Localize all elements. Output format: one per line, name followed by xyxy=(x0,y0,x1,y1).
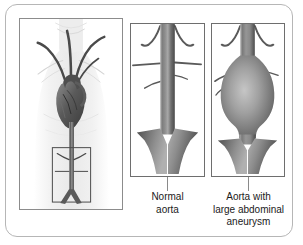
iliac-bifurcation xyxy=(137,129,198,174)
descending-aorta xyxy=(69,122,74,192)
caption-normal-line-2: aorta xyxy=(130,204,205,217)
panel-normal-aorta xyxy=(130,23,205,177)
caption-normal-aorta: Normal aorta xyxy=(130,191,205,216)
caption-normal-line-1: Normal xyxy=(130,191,205,204)
torso-illustration xyxy=(20,19,122,209)
panel-aneurysm-aorta xyxy=(211,23,285,177)
caption-aneurysm-aorta: Aorta with large abdominal aneurysm xyxy=(199,191,293,229)
caption-aneurysm-line-3: aneurysm xyxy=(199,216,293,229)
normal-aorta-illustration xyxy=(131,24,204,176)
caption-aneurysm-line-1: Aorta with xyxy=(199,191,293,204)
aorta-trunk xyxy=(160,24,175,135)
aorta-proximal-neck xyxy=(240,24,255,60)
caption-aneurysm-line-2: large abdominal xyxy=(199,204,293,217)
panel-torso xyxy=(19,18,123,210)
figure-frame: Normal aorta Aorta with large abdominal … xyxy=(5,4,293,237)
leader-line-aneurysm xyxy=(248,177,249,191)
leader-line-normal xyxy=(167,177,168,191)
aneurysm-sac xyxy=(221,56,275,139)
aneurysm-aorta-illustration xyxy=(212,24,284,176)
